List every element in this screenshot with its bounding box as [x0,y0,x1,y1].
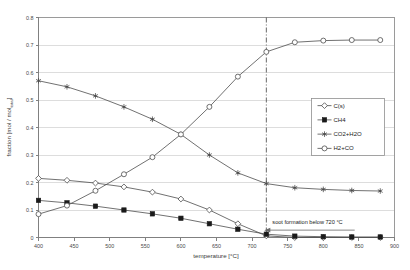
y-tick-label: 0.6 [26,70,34,76]
data-point-marker [349,38,354,43]
x-tick-label: 850 [354,243,363,249]
data-point-marker [179,216,183,220]
y-tick-label: 0.3 [26,152,34,158]
data-point-marker [150,212,154,216]
data-point-marker [122,208,126,212]
data-point-marker [150,189,156,195]
data-point-marker [292,40,297,45]
x-axis-ticks: 400450500550600650700750800850900 [34,238,399,249]
data-point-marker [264,49,269,54]
data-point-marker [121,184,127,190]
y-tick-label: 0.5 [26,97,34,103]
data-point-marker [36,212,41,217]
x-tick-label: 650 [212,243,221,249]
data-point-marker [121,172,126,177]
x-tick-label: 450 [70,243,79,249]
x-tick-label: 600 [176,243,185,249]
x-tick-label: 900 [390,243,399,249]
data-point-marker [322,118,326,122]
x-tick-label: 400 [34,243,43,249]
y-axis-title: fraction [mol / moltotal] [5,97,14,156]
y-tick-label: 0.8 [26,15,34,21]
data-point-marker [378,38,383,43]
chart-svg: 00.10.20.30.40.50.60.70.8 40045050055060… [0,0,410,270]
legend: C(s)CH4CO2+H2OH2+CO [312,99,385,156]
data-point-marker [207,222,211,226]
legend-item-label: H2+CO [334,145,355,151]
legend-item-label: CH4 [334,117,347,123]
y-tick-label: 0.1 [26,207,34,213]
data-point-marker [36,175,42,181]
legend-item-co2-h2o[interactable]: CO2+H2O [318,131,363,137]
y-tick-label: 0 [31,235,34,241]
data-point-marker [178,196,184,202]
data-point-marker [122,104,127,110]
data-point-marker [207,104,212,109]
legend-item-label: C(s) [334,103,345,109]
data-point-marker [178,132,183,137]
x-axis-title: temperature [°C] [193,252,239,259]
data-point-marker [150,116,155,122]
data-point-marker [206,207,212,213]
data-point-marker [150,155,155,160]
data-point-marker [93,93,98,99]
y-axis-ticks: 00.10.20.30.40.50.60.70.8 [26,15,39,241]
data-point-marker [235,221,241,227]
x-tick-label: 750 [283,243,292,249]
data-point-marker [93,180,99,186]
x-tick-label: 550 [141,243,150,249]
chart-container: 00.10.20.30.40.50.60.70.8 40045050055060… [0,0,410,270]
data-point-marker [36,198,40,202]
y-tick-label: 0.2 [26,180,34,186]
data-point-marker [93,188,98,193]
annotations-group: soot formation below 720 °C [264,219,354,233]
data-point-marker [236,227,240,231]
y-tick-label: 0.7 [26,42,34,48]
legend-item-label: CO2+H2O [334,131,363,137]
data-point-marker [350,235,354,239]
data-point-marker [321,234,325,238]
data-point-marker [293,234,297,238]
soot-formation-note: soot formation below 720 °C [272,219,342,225]
data-point-marker [264,232,268,236]
x-tick-label: 800 [319,243,328,249]
legend-item-h2-co[interactable]: H2+CO [318,145,355,151]
data-point-marker [378,235,382,239]
y-tick-label: 0.4 [26,125,34,131]
data-point-marker [235,74,240,79]
x-tick-label: 700 [248,243,257,249]
data-point-marker [235,170,240,176]
data-point-marker [93,204,97,208]
series-c-s- [36,175,384,240]
data-point-marker [64,203,69,208]
x-tick-label: 500 [105,243,114,249]
data-point-marker [321,38,326,43]
data-point-marker [322,146,327,151]
